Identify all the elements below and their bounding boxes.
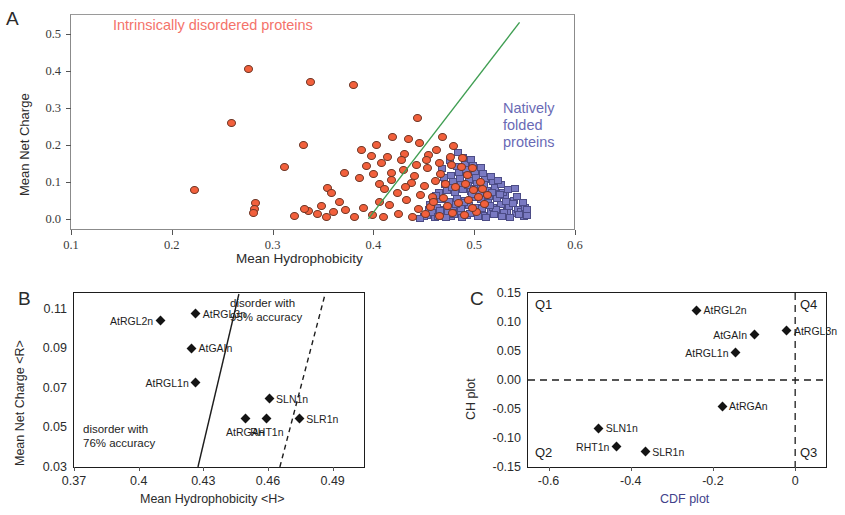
- panel-c-quadrant-lines: [0, 0, 845, 515]
- figure-root: A Mean Net Charge Mean Hydrophobicity In…: [0, 0, 845, 515]
- panel-c: C CH plot CDF plot Q1 Q4 Q2 Q3 -0.6-0.4-…: [0, 0, 845, 243]
